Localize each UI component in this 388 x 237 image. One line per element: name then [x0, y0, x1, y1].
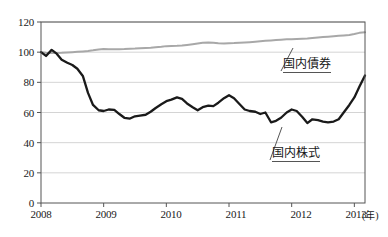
x-axis-ticks-group	[41, 203, 354, 207]
x-tick-label-2009: 2009	[86, 209, 126, 220]
y-axis-ticks-group	[37, 22, 41, 203]
series-annotation-bonds: 国内債券	[283, 58, 331, 73]
series-annotation-stocks: 国内株式	[272, 147, 320, 162]
x-axis-unit-label: (年)	[362, 210, 379, 221]
x-tick-label-2010: 2010	[151, 209, 191, 220]
y-tick-label-120: 120	[8, 17, 34, 28]
x-tick-label-2008: 2008	[21, 209, 61, 220]
y-tick-label-40: 40	[8, 138, 34, 149]
y-tick-label-20: 20	[8, 168, 34, 179]
series-paths-group	[41, 32, 365, 123]
x-tick-label-2012: 2012	[281, 209, 321, 220]
y-tick-label-60: 60	[8, 108, 34, 119]
x-tick-label-2011: 2011	[216, 209, 256, 220]
chart-plot-svg	[0, 0, 388, 237]
y-tick-label-80: 80	[8, 77, 34, 88]
y-tick-label-100: 100	[8, 47, 34, 58]
series-line-bonds	[41, 32, 365, 53]
chart-container: 120 100 80 60 40 20 0 2008 2009 2010 201…	[0, 0, 388, 237]
